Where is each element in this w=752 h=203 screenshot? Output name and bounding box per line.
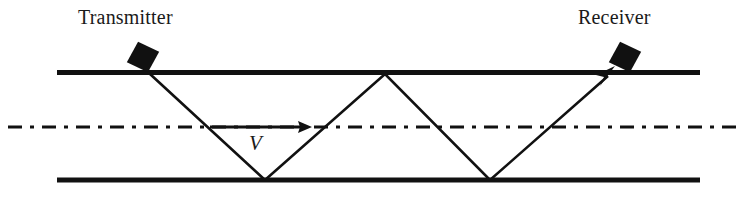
velocity-arrow-head-icon	[298, 121, 312, 133]
waveguide-ray-path-diagram: Transmitter Receiver V	[0, 0, 752, 203]
diagram-canvas	[0, 0, 752, 203]
transmitter-label: Transmitter	[78, 6, 173, 29]
receiver-label: Receiver	[578, 6, 651, 29]
velocity-label: V	[249, 131, 262, 156]
